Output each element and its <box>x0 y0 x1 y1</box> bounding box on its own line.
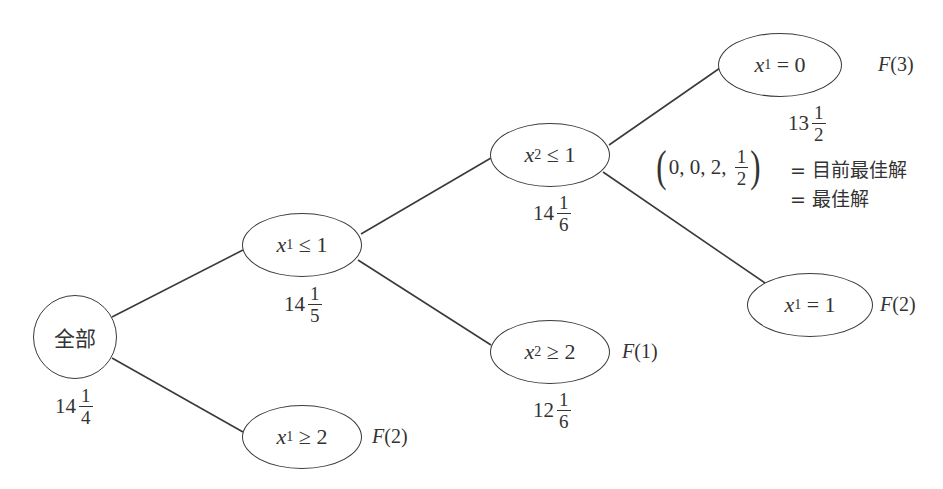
incumbent-solution: ( 0, 0, 2, 1 2 ) <box>654 145 763 189</box>
node-root: 全部 <box>33 295 117 379</box>
node-x1-eq-0: x1 = 0 <box>718 33 842 97</box>
edge-x2le1-x1eq0 <box>609 68 720 145</box>
solution-note-current-best: = 目前最佳解 <box>790 155 907 182</box>
fraction: 1 2 <box>812 103 826 144</box>
fathom-tag-x1-ge-2: F(2) <box>372 425 408 448</box>
node-x1-le-1: x1 ≤ 1 <box>242 213 362 277</box>
bound-x1-eq-0: 13 1 2 <box>788 103 826 144</box>
edge-x1le1-x2ge2 <box>358 260 491 345</box>
solution-note-optimal: = 最佳解 <box>790 184 907 211</box>
edge-root-x1ge2 <box>112 358 243 432</box>
fraction: 1 6 <box>557 193 571 234</box>
edge-root-x1le1 <box>112 250 243 317</box>
fathom-tag-x2-ge-2: F(1) <box>622 340 658 363</box>
bound-x1-le-1: 14 1 5 <box>284 284 322 325</box>
left-paren: ( <box>656 145 666 189</box>
fathom-tag-x1-eq-0: F(3) <box>878 53 914 76</box>
edge-x1le1-x2le1 <box>361 158 491 234</box>
fraction: 1 6 <box>557 390 571 431</box>
bound-x2-le-1: 14 1 6 <box>533 193 571 234</box>
node-x2-ge-2: x2 ≥ 2 <box>490 320 610 384</box>
right-paren: ) <box>750 145 760 189</box>
fathom-tag-x1-eq-1: F(2) <box>880 293 916 316</box>
node-x1-eq-1: x1 = 1 <box>747 273 873 337</box>
node-x1-ge-2: x1 ≥ 2 <box>242 405 362 469</box>
fraction: 1 4 <box>79 386 93 427</box>
node-root-label: 全部 <box>54 322 96 352</box>
bound-x2-ge-2: 12 1 6 <box>533 390 571 431</box>
node-x2-le-1: x2 ≤ 1 <box>490 123 610 187</box>
fraction: 1 2 <box>735 147 749 188</box>
fraction: 1 5 <box>308 284 322 325</box>
solution-notes: = 目前最佳解 = 最佳解 <box>790 155 907 211</box>
bound-root: 14 1 4 <box>55 386 93 427</box>
